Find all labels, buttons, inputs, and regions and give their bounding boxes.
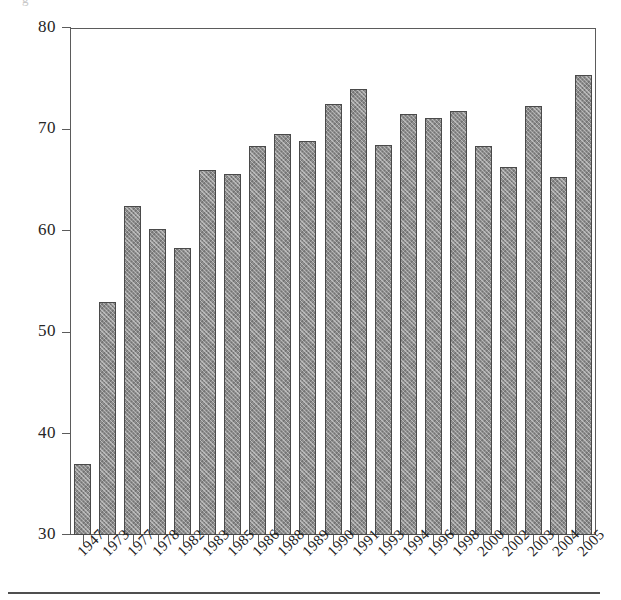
bar xyxy=(149,229,166,535)
bar xyxy=(525,106,542,535)
y-axis-tick-label: 30 xyxy=(22,524,56,544)
bar xyxy=(350,89,367,535)
bar xyxy=(400,114,417,535)
bar xyxy=(274,134,291,535)
footer-divider xyxy=(8,592,600,594)
y-axis-tick-label: 80 xyxy=(22,17,56,37)
bar xyxy=(224,174,241,535)
bar xyxy=(74,464,91,535)
y-axis-tick-label: 60 xyxy=(22,220,56,240)
y-axis-tick-label: 50 xyxy=(22,321,56,341)
y-axis-tick-label: 40 xyxy=(22,423,56,443)
bar xyxy=(199,170,216,535)
y-axis-tick-label: 70 xyxy=(22,118,56,138)
bar xyxy=(325,104,342,535)
bar xyxy=(99,302,116,535)
bar xyxy=(299,141,316,535)
bar xyxy=(425,118,442,535)
bar xyxy=(174,248,191,535)
bar xyxy=(475,146,492,535)
bar-series xyxy=(70,28,596,535)
bar xyxy=(450,111,467,535)
bar xyxy=(550,177,567,535)
bar xyxy=(124,206,141,535)
bar-chart: 304050607080 194719731977197819821983198… xyxy=(0,0,621,600)
bar xyxy=(500,167,517,535)
bar xyxy=(249,146,266,535)
bar xyxy=(575,75,592,535)
bar xyxy=(375,145,392,535)
